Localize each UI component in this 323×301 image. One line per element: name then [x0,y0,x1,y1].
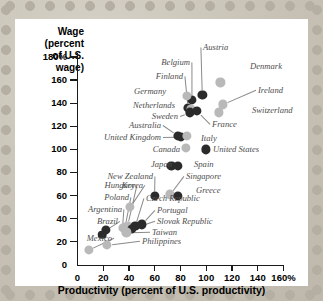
y-tick-label-100: 100 [0,143,67,154]
point-label-singapore: Singapore [186,172,221,181]
y-tick-label-wrap-80: 80 [0,166,67,177]
point-label-united-states: United States [213,145,259,154]
y-tick-160 [70,79,77,80]
point-label-united-kingdom: United Kingdom [104,133,161,142]
point-label-netherlands: Netherlands [133,101,175,110]
point-label-japan: Japan [151,160,172,169]
x-tick-160 [283,265,284,271]
leader-line-france [200,115,210,125]
y-tick-label-0: 0 [0,259,67,270]
y-axis-title-line-1: Wage (percent [22,26,84,50]
x-tick-40 [128,265,129,271]
x-tick-label-60: 60 [149,272,160,283]
x-tick-label-40: 40 [124,272,135,283]
y-tick-label-80: 80 [0,166,67,177]
y-tick-label-20: 20 [0,236,67,247]
y-tick-100 [70,149,77,150]
point-label-czech-republic: Czech Republic [146,194,200,203]
point-label-ireland: Ireland [258,86,283,95]
y-tick-120 [70,126,77,127]
data-point-italy [182,131,191,140]
y-tick-label-160: 160 [0,74,67,85]
leader-line-australia [163,125,174,133]
x-tick-120 [231,265,232,271]
data-point-switzerland [215,108,224,117]
point-label-korea: Korea [122,181,143,190]
point-label-switzerland: Switzerland [252,106,293,115]
y-tick-label-wrap-0: 0 [0,259,67,270]
x-axis-title: Productivity (percent of U.S. productivi… [0,284,323,296]
data-point-mexico [84,245,93,254]
y-axis-title: Wage (percentof U.S. wage) [22,26,84,74]
y-tick-label-wrap-60: 60 [0,190,67,201]
y-tick-80 [70,172,77,173]
leader-line-philippines [112,241,140,245]
point-label-finland: Finland [156,72,183,81]
data-point-taiwan [122,228,131,237]
leader-line-new-zealand [154,176,155,191]
leader-line-ireland [227,90,256,103]
y-tick-label-wrap-140: 140 [0,97,67,108]
point-label-argentina: Argentina [88,205,122,214]
leader-line-singapore [173,176,184,191]
x-tick-label-80: 80 [175,272,186,283]
leader-line-austria [201,47,203,90]
point-label-germany: Germany [134,87,166,96]
y-tick-label-180: 180% [0,51,67,62]
y-tick-180 [70,56,77,57]
point-label-portugal: Portugal [157,206,188,215]
leader-line-portugal [145,210,155,221]
point-label-philippines: Philippines [142,237,181,246]
x-tick-label-140: 140 [250,272,266,283]
point-label-austria: Austria [203,43,228,52]
y-tick-label-wrap-120: 120 [0,120,67,131]
point-label-france: France [212,120,237,129]
leader-line-belgium [192,62,193,95]
leader-line-sweden [180,114,185,117]
point-label-poland: Poland [104,193,129,202]
point-label-slovak-republic: Slovak Republic [157,217,213,226]
point-label-brazil: Brazil [97,217,118,226]
data-point-spain [173,161,182,170]
x-tick-140 [257,265,258,271]
y-tick-40 [70,218,77,219]
point-label-canada: Canada [153,145,180,154]
y-tick-140 [70,103,77,104]
data-point-denmark [216,78,225,87]
x-tick-label-160: 160% [271,272,295,283]
y-tick-60 [70,195,77,196]
point-label-denmark: Denmark [250,62,282,71]
x-tick-60 [154,265,155,271]
y-tick-label-60: 60 [0,190,67,201]
point-label-mexico: Mexico [87,234,112,243]
data-point-canada [181,144,190,153]
y-tick-label-wrap-20: 20 [0,236,67,247]
y-tick-label-wrap-40: 40 [0,213,67,224]
x-tick-label-120: 120 [224,272,240,283]
y-tick-label-wrap-100: 100 [0,143,67,154]
data-point-portugal [137,220,146,229]
x-tick-20 [103,265,104,271]
y-axis-line [77,53,78,266]
data-point-united-states [202,145,211,154]
x-tick-label-20: 20 [98,272,109,283]
x-tick-label-100: 100 [198,272,214,283]
point-label-italy: Italy [201,134,217,143]
y-tick-label-140: 140 [0,97,67,108]
data-point-korea [126,202,135,211]
leader-line-czech-republic [137,198,145,221]
point-label-australia: Australia [129,121,161,130]
data-point-austria [198,91,207,100]
y-tick-label-40: 40 [0,213,67,224]
x-tick-100 [206,265,207,271]
y-tick-label-wrap-180: 180% [0,51,67,62]
point-label-belgium: Belgium [161,58,190,67]
point-label-spain: Spain [194,160,214,169]
y-tick-label-wrap-160: 160 [0,74,67,85]
x-tick-80 [180,265,181,271]
scatter-plot: Wage (percentof U.S. wage) Productivity … [0,0,323,301]
x-tick-label-0: 0 [75,272,80,283]
y-tick-label-120: 120 [0,120,67,131]
y-tick-20 [70,241,77,242]
